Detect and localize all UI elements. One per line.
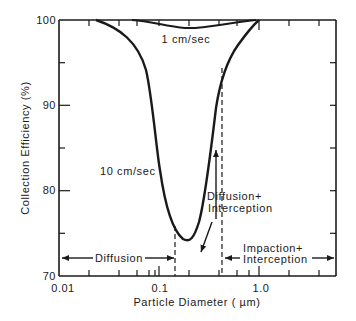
label-diffusion-interception-2: Interception [208,202,273,214]
y-axis-ticks-right [330,63,336,234]
diff-int-arrow-down [201,222,212,252]
y-tick-80: 80 [43,184,56,196]
x-axis-title: Particle Diameter ( µm) [133,296,260,308]
label-1-cm-per-sec: 1 cm/sec [162,33,211,45]
y-axis-ticks-left [59,63,70,234]
plot-frame [59,20,336,276]
y-tick-90: 90 [43,99,56,111]
x-tick-0.01: 0.01 [51,282,74,294]
regime-boundaries [175,68,222,276]
collection-efficiency-chart: 100 90 80 70 0.01 0.1 1.0 Particle Diame… [0,0,356,321]
label-diffusion-interception-1: Diffusion+ [207,190,262,202]
y-tick-70: 70 [43,270,56,282]
x-axis-ticks-bottom [89,266,319,276]
label-10-cm-per-sec: 10 cm/sec [100,165,156,177]
y-axis-title: Collection Efficiency (%) [19,81,31,214]
label-diffusion: Diffusion [95,252,143,264]
x-axis-ticks-top [89,20,319,30]
x-tick-0.1: 0.1 [152,282,169,294]
y-tick-100: 100 [36,14,56,26]
x-tick-1.0: 1.0 [253,282,270,294]
label-impaction-interception-2: Interception [243,253,308,265]
